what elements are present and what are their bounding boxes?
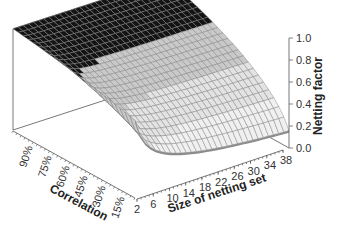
x-tick-label: 2 bbox=[134, 203, 140, 215]
z-tick-label: 0.6 bbox=[296, 76, 311, 88]
z-axis: 0.00.20.40.60.81.0 bbox=[289, 32, 311, 154]
netting-factor-surface-chart: 0.00.20.40.60.81.0 261014182226303438 90… bbox=[0, 0, 340, 226]
z-axis-title: Netting factor bbox=[311, 57, 325, 135]
z-tick-label: 0.8 bbox=[296, 54, 311, 66]
x-tick-label: 38 bbox=[280, 154, 292, 166]
z-tick-label: 0.0 bbox=[296, 142, 311, 154]
x-axis-netting-set: 261014182226303438 bbox=[134, 150, 292, 215]
x-tick-label: 34 bbox=[264, 159, 276, 171]
x-tick-label: 6 bbox=[150, 198, 156, 210]
y-tick-label: 15% bbox=[108, 195, 126, 220]
surface-plot bbox=[13, 0, 289, 155]
y-tick-label: 75% bbox=[35, 154, 53, 179]
z-tick-label: 0.4 bbox=[296, 98, 311, 110]
z-tick-label: 1.0 bbox=[296, 32, 311, 44]
z-tick-label: 0.2 bbox=[296, 120, 311, 132]
y-tick-label: 90% bbox=[16, 144, 34, 169]
